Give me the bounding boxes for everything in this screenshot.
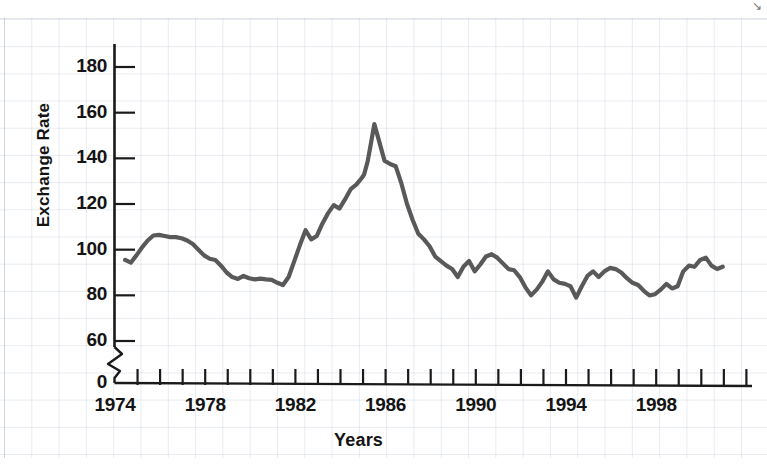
y-tick-label: 160 [45,101,107,123]
y-tick-label: 180 [45,55,107,77]
x-tick-label: 1986 [341,394,431,416]
x-axis-title: Years [334,430,383,451]
chart-page: 60801001201401601800 1974197819821986199… [0,0,767,475]
y-tick-label: 140 [45,146,107,168]
x-tick-label: 1978 [160,394,250,416]
corner-scan-mark: ↘ [752,2,761,11]
x-tick-label: 1998 [611,394,701,416]
y-tick-label-zero: 0 [45,371,107,393]
y-tick-label: 100 [45,238,107,260]
y-tick-label: 120 [45,192,107,214]
y-tick-label: 80 [45,283,107,305]
exchange-rate-line [125,124,723,298]
y-axis-break-zigzag [108,347,122,383]
x-tick-label: 1974 [70,394,160,416]
x-tick-label: 1982 [250,394,340,416]
y-axis-tick-marks [114,67,135,341]
x-tick-label: 1990 [431,394,521,416]
y-axis-title: Exchange Rate [34,85,54,245]
y-tick-label: 60 [45,329,107,351]
x-tick-label: 1994 [521,394,611,416]
